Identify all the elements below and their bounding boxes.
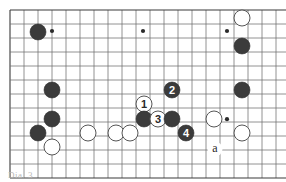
stone[interactable] [44, 139, 60, 155]
black-stone-icon [30, 125, 46, 141]
go-board-diagram: a1234 [0, 0, 286, 182]
black-stone-icon [30, 24, 46, 40]
stone[interactable] [234, 82, 250, 98]
stones-layer: 1234 [30, 10, 250, 155]
stone[interactable] [206, 111, 222, 127]
move-stone[interactable]: 2 [164, 82, 180, 98]
move-number-label: 2 [169, 84, 175, 96]
stone[interactable] [164, 111, 180, 127]
stone[interactable] [44, 111, 60, 127]
stone[interactable] [44, 82, 60, 98]
white-stone-icon [80, 125, 96, 141]
move-number-label: 4 [183, 127, 190, 139]
stone[interactable] [30, 24, 46, 40]
black-stone-icon [234, 82, 250, 98]
black-stone-icon [44, 111, 60, 127]
move-stone[interactable]: 4 [178, 125, 194, 141]
point-label: a [212, 141, 218, 155]
white-stone-icon [122, 125, 138, 141]
white-stone-icon [44, 139, 60, 155]
black-stone-icon [44, 82, 60, 98]
white-stone-icon [234, 10, 250, 26]
stone[interactable] [30, 125, 46, 141]
stone[interactable] [234, 10, 250, 26]
move-stone[interactable]: 1 [136, 96, 152, 112]
star-point-icon [225, 29, 229, 33]
star-point-icon [141, 29, 145, 33]
stone[interactable] [234, 38, 250, 54]
stone[interactable] [80, 125, 96, 141]
move-stone[interactable]: 3 [150, 111, 166, 127]
white-stone-icon [234, 125, 250, 141]
star-point-icon [50, 29, 54, 33]
star-point-icon [225, 117, 229, 121]
stone[interactable] [234, 125, 250, 141]
black-stone-icon [164, 111, 180, 127]
diagram-caption: Dia. 3 [8, 170, 33, 180]
black-stone-icon [234, 38, 250, 54]
move-number-label: 1 [141, 98, 147, 110]
move-number-label: 3 [155, 113, 161, 125]
white-stone-icon [206, 111, 222, 127]
stone[interactable] [122, 125, 138, 141]
